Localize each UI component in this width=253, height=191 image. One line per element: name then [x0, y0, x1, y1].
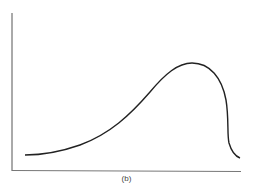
- x-axis: [12, 171, 241, 172]
- figure-caption: (b): [0, 174, 253, 183]
- chart-canvas: [0, 0, 253, 191]
- data-curve: [25, 63, 240, 158]
